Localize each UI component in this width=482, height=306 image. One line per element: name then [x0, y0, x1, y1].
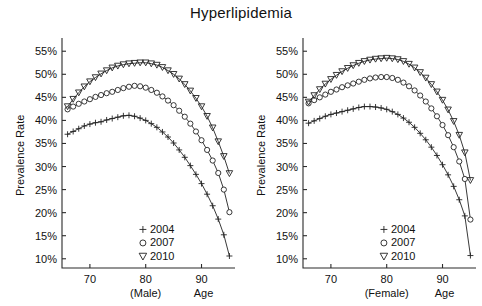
plus-marker	[87, 121, 93, 127]
circle-marker	[412, 88, 417, 93]
triangle-down-marker	[139, 253, 147, 260]
plus-marker	[120, 113, 126, 119]
x-tick-label: 90	[195, 273, 207, 285]
plus-marker	[126, 112, 132, 118]
circle-marker	[177, 108, 182, 113]
circle-marker	[356, 79, 361, 84]
circle-marker	[351, 81, 356, 86]
plus-marker	[456, 197, 462, 203]
plus-marker	[434, 152, 440, 158]
plus-marker	[98, 119, 104, 125]
plus-marker	[143, 117, 149, 123]
y-tick-label: 30%	[35, 161, 57, 173]
plus-marker	[70, 128, 76, 134]
triangle-down-marker	[226, 171, 233, 177]
legend-label-2010: 2010	[391, 250, 415, 262]
circle-marker	[221, 187, 226, 192]
y-tick-label: 20%	[276, 207, 298, 219]
plus-marker	[92, 120, 98, 126]
plus-marker	[361, 104, 367, 110]
circle-marker	[227, 210, 232, 215]
plus-marker	[467, 253, 473, 259]
plus-marker	[350, 106, 356, 112]
plus-marker	[367, 104, 373, 110]
circle-marker	[71, 104, 76, 109]
y-tick-label: 10%	[35, 253, 57, 265]
figure-container: Hyperlipidemia Prevalence Rate 10%15%20%…	[0, 0, 482, 306]
plus-marker	[322, 113, 328, 119]
y-tick-label: 10%	[276, 253, 298, 265]
circle-marker	[395, 77, 400, 82]
y-tick-label: 40%	[35, 114, 57, 126]
plus-marker	[204, 191, 210, 197]
circle-marker	[406, 84, 411, 89]
series-line-2010	[68, 63, 230, 174]
plus-marker	[373, 104, 379, 110]
plus-marker	[109, 116, 115, 122]
circle-marker	[210, 158, 215, 163]
plus-marker	[389, 109, 395, 115]
circle-marker	[182, 114, 187, 119]
y-tick-label: 45%	[35, 91, 57, 103]
series-line-2007	[309, 77, 471, 220]
x-tick-label: 90	[436, 273, 448, 285]
x-axis-label: Age	[435, 287, 455, 299]
series-line-2004	[68, 115, 230, 256]
circle-marker	[334, 87, 339, 92]
circle-marker	[126, 84, 131, 89]
x-tick-label: 70	[325, 273, 337, 285]
series-markers-2007	[306, 74, 473, 222]
circle-marker	[205, 147, 210, 152]
chart-panel-male: Prevalence Rate 10%15%20%25%30%35%40%45%…	[0, 0, 241, 306]
y-tick-label: 15%	[35, 230, 57, 242]
x-tick-label: 80	[140, 273, 152, 285]
series-markers-2010	[64, 60, 232, 177]
circle-marker	[76, 101, 81, 106]
circle-marker	[468, 217, 473, 222]
circle-marker	[199, 138, 204, 143]
x-tick-label: 80	[381, 273, 393, 285]
circle-marker	[446, 133, 451, 138]
plus-marker	[76, 126, 82, 132]
y-tick-label: 55%	[276, 45, 298, 57]
x-axis-label: Age	[194, 287, 214, 299]
plus-marker	[193, 171, 199, 177]
y-tick-label: 35%	[35, 137, 57, 149]
circle-marker	[140, 240, 146, 246]
legend-label-2004: 2004	[391, 223, 415, 235]
circle-marker	[423, 99, 428, 104]
legend[interactable]: 200420072010	[380, 223, 415, 262]
triangle-down-marker	[380, 253, 388, 260]
plus-marker	[339, 109, 345, 115]
circle-marker	[328, 89, 333, 94]
circle-marker	[160, 94, 165, 99]
plus-marker	[311, 118, 317, 124]
plus-marker	[356, 105, 362, 111]
circle-marker	[143, 85, 148, 90]
y-tick-label: 55%	[35, 45, 57, 57]
plus-marker	[139, 226, 146, 233]
y-tick-label: 40%	[276, 114, 298, 126]
plus-marker	[333, 110, 339, 116]
legend[interactable]: 200420072010	[139, 223, 174, 262]
circle-marker	[121, 86, 126, 91]
circle-marker	[87, 97, 92, 102]
circle-marker	[390, 75, 395, 80]
circle-marker	[188, 121, 193, 126]
plus-marker	[132, 113, 138, 119]
y-tick-label: 25%	[276, 184, 298, 196]
plus-marker	[215, 216, 221, 222]
x-tick-label: 70	[84, 273, 96, 285]
circle-marker	[110, 89, 115, 94]
plus-marker	[317, 116, 323, 122]
plus-marker	[65, 131, 71, 137]
y-tick-label: 50%	[276, 68, 298, 80]
plus-marker	[384, 106, 390, 112]
circle-marker	[171, 103, 176, 108]
y-tick-label: 20%	[35, 207, 57, 219]
y-tick-label: 35%	[276, 137, 298, 149]
plot-area-female: 10%15%20%25%30%35%40%45%50%55%708090(Fem…	[241, 0, 482, 306]
circle-marker	[165, 98, 170, 103]
circle-marker	[216, 170, 221, 175]
circle-marker	[115, 87, 120, 92]
